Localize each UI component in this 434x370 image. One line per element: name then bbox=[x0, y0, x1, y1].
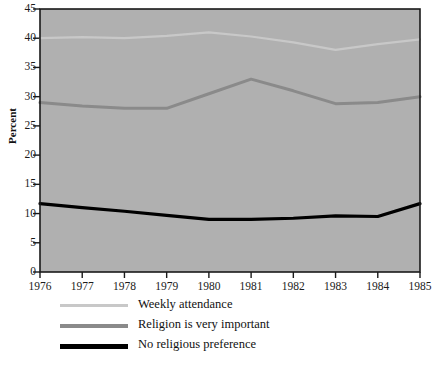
chart-legend: Weekly attendanceReligion is very import… bbox=[60, 296, 434, 356]
legend-item: Religion is very important bbox=[60, 316, 434, 336]
legend-line-swatch bbox=[60, 304, 128, 307]
legend-line-swatch bbox=[60, 344, 128, 349]
chart-figure: Percent 051015202530354045 1976197719781… bbox=[0, 0, 434, 370]
legend-item: Weekly attendance bbox=[60, 296, 434, 316]
plot-area-background bbox=[40, 9, 420, 272]
legend-label: No religious preference bbox=[138, 337, 256, 352]
legend-line-swatch bbox=[60, 324, 128, 328]
legend-item: No religious preference bbox=[60, 336, 434, 356]
legend-label: Weekly attendance bbox=[138, 297, 232, 312]
legend-label: Religion is very important bbox=[138, 317, 270, 332]
